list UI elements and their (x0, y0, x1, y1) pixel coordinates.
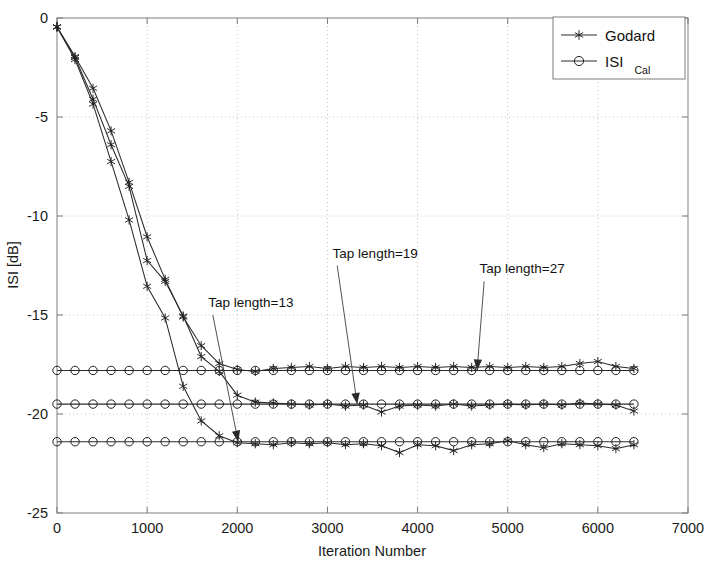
x-tick-label: 7000 (672, 520, 704, 536)
tick-labels: 010002000300040005000600070000-5-10-15-2… (27, 10, 704, 536)
annotation-leader-line (337, 266, 357, 405)
marker-star (197, 352, 205, 361)
marker-star (143, 232, 151, 241)
series-line (57, 27, 634, 453)
data-series (53, 22, 638, 457)
y-tick-label: 0 (40, 10, 48, 26)
annotation-arrowhead (351, 393, 359, 404)
x-tick-label: 2000 (221, 520, 253, 536)
x-tick-label: 6000 (582, 520, 614, 536)
marker-star (107, 157, 115, 166)
x-tick-label: 3000 (311, 520, 343, 536)
annotation-leader-line (213, 315, 238, 442)
legend-entry-label: ISI (605, 53, 623, 70)
chart-canvas: 010002000300040005000600070000-5-10-15-2… (0, 0, 707, 570)
annotation-label: Tap length=13 (208, 295, 293, 310)
marker-star (107, 140, 115, 149)
annotation-label: Tap length=27 (480, 261, 565, 276)
y-tick-label: -10 (27, 208, 48, 224)
y-tick-label: -15 (27, 307, 48, 323)
marker-star (125, 215, 133, 224)
marker-star (161, 313, 169, 322)
series-line (57, 27, 634, 412)
x-axis-title: Iteration Number (318, 543, 426, 559)
legend-entry-sublabel: Cal (635, 64, 651, 76)
marker-star (107, 126, 115, 135)
marker-star (179, 312, 187, 321)
y-tick-label: -25 (27, 505, 48, 521)
annotation-label: Tap length=19 (333, 246, 418, 261)
marker-star (450, 446, 458, 455)
x-tick-label: 1000 (131, 520, 163, 536)
isi-convergence-figure: 010002000300040005000600070000-5-10-15-2… (0, 0, 707, 570)
marker-star (143, 282, 151, 291)
y-tick-label: -5 (35, 109, 48, 125)
marker-star (197, 416, 205, 425)
y-tick-label: -20 (27, 406, 48, 422)
x-tick-label: 5000 (492, 520, 524, 536)
marker-star (53, 22, 61, 31)
y-axis-title: ISI [dB] (5, 241, 21, 289)
x-tick-label: 4000 (401, 520, 433, 536)
marker-star (179, 382, 187, 391)
marker-star (396, 448, 404, 457)
marker-star (378, 407, 386, 416)
legend-entry-label: Godard (605, 27, 655, 44)
x-tick-label: 0 (53, 520, 61, 536)
series-group (53, 22, 638, 457)
legend: GodardISICal (553, 17, 685, 79)
annotation-leader-line (477, 281, 484, 370)
annotations: Tap length=13Tap length=19Tap length=27 (208, 246, 565, 442)
series-group (53, 22, 638, 416)
